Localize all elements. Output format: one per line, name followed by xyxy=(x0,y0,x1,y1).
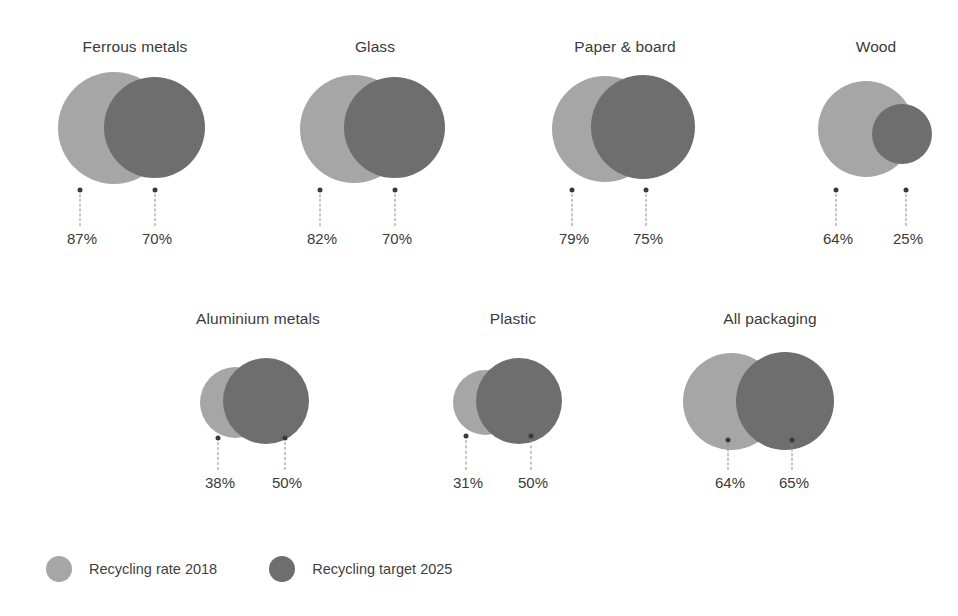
leader-line-target xyxy=(395,194,396,226)
legend-label: Recycling target 2025 xyxy=(312,561,452,577)
marker-dot-rate xyxy=(318,188,323,193)
marker-dot-rate xyxy=(464,434,469,439)
panel-aluminium-metals: Aluminium metals 38% 50% xyxy=(183,310,333,525)
panel-glass: Glass 82% 70% xyxy=(300,38,450,263)
dark-circle-swatch-icon xyxy=(269,556,295,582)
legend-item-recycling-rate-2018[interactable]: Recycling rate 2018 xyxy=(46,556,217,582)
marker-dot-rate xyxy=(726,438,731,443)
value-label-target: 75% xyxy=(633,230,663,247)
value-label-target: 65% xyxy=(779,474,809,491)
panel-all-packaging: All packaging 64% 65% xyxy=(680,310,860,525)
marker-dot-rate xyxy=(216,436,221,441)
leader-line-rate xyxy=(836,194,837,226)
value-label-target: 50% xyxy=(518,474,548,491)
value-label-target: 50% xyxy=(272,474,302,491)
leader-line-target xyxy=(285,442,286,470)
value-label-target: 70% xyxy=(382,230,412,247)
panel-title: Aluminium metals xyxy=(196,310,320,328)
panel-title: Paper & board xyxy=(574,38,675,56)
value-label-target: 25% xyxy=(893,230,923,247)
marker-dot-target xyxy=(153,188,158,193)
value-label-rate: 79% xyxy=(559,230,589,247)
panel-title: Wood xyxy=(856,38,897,56)
value-label-rate: 87% xyxy=(67,230,97,247)
panel-plastic: Plastic 31% 50% xyxy=(443,310,583,525)
bubble-recycling-target-2025[interactable] xyxy=(344,77,445,178)
light-circle-swatch-icon xyxy=(46,556,72,582)
value-label-rate: 64% xyxy=(823,230,853,247)
marker-dot-target xyxy=(393,188,398,193)
legend-label: Recycling rate 2018 xyxy=(89,561,217,577)
panel-title: Glass xyxy=(355,38,395,56)
panel-ferrous-metals: Ferrous metals 87% 70% xyxy=(60,38,210,263)
chart-legend: Recycling rate 2018 Recycling target 202… xyxy=(46,556,452,582)
panel-title: Ferrous metals xyxy=(83,38,188,56)
bubble-comparison-chart: Ferrous metals 87% 70% Glass 82% 70% Pap… xyxy=(0,0,958,616)
marker-dot-target xyxy=(904,188,909,193)
panel-paper-and-board: Paper & board 79% 75% xyxy=(550,38,700,263)
leader-line-target xyxy=(792,444,793,470)
marker-dot-target xyxy=(283,436,288,441)
bubble-recycling-target-2025[interactable] xyxy=(872,104,932,164)
leader-line-rate xyxy=(320,194,321,226)
marker-dot-target xyxy=(790,438,795,443)
bubble-recycling-target-2025[interactable] xyxy=(591,75,695,179)
value-label-target: 70% xyxy=(142,230,172,247)
leader-line-target xyxy=(155,194,156,226)
bubble-recycling-target-2025[interactable] xyxy=(476,358,562,444)
marker-dot-target xyxy=(529,434,534,439)
value-label-rate: 82% xyxy=(307,230,337,247)
panel-wood: Wood 64% 25% xyxy=(816,38,936,263)
marker-dot-rate xyxy=(834,188,839,193)
bubble-recycling-target-2025[interactable] xyxy=(736,352,834,450)
leader-line-rate xyxy=(728,444,729,470)
marker-dot-rate xyxy=(570,188,575,193)
leader-line-rate xyxy=(80,194,81,226)
value-label-rate: 31% xyxy=(453,474,483,491)
legend-item-recycling-target-2025[interactable]: Recycling target 2025 xyxy=(269,556,452,582)
bubble-recycling-target-2025[interactable] xyxy=(223,358,309,444)
leader-line-target xyxy=(906,194,907,226)
value-label-rate: 38% xyxy=(205,474,235,491)
leader-line-rate xyxy=(572,194,573,226)
leader-line-target xyxy=(646,194,647,226)
bubble-recycling-target-2025[interactable] xyxy=(104,77,205,178)
panel-title: Plastic xyxy=(490,310,536,328)
leader-line-target xyxy=(531,440,532,470)
value-label-rate: 64% xyxy=(715,474,745,491)
leader-line-rate xyxy=(466,440,467,470)
leader-line-rate xyxy=(218,442,219,470)
marker-dot-rate xyxy=(78,188,83,193)
panel-title: All packaging xyxy=(723,310,817,328)
marker-dot-target xyxy=(644,188,649,193)
